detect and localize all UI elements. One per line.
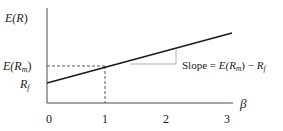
erm-tick-label: E(Rm): [2, 59, 31, 74]
sml-chart: E(R) E(Rm) Rf β 0 1 2 3 Slope = E(Rm) − …: [0, 0, 283, 131]
x-tick-2: 2: [163, 112, 169, 126]
slope-annotation: Slope = E(Rm) − Rf: [182, 59, 266, 73]
x-tick-0: 0: [46, 112, 52, 126]
y-axis-label: E(R): [4, 11, 28, 25]
security-market-line: [47, 33, 232, 83]
x-tick-3: 3: [224, 112, 230, 126]
x-tick-1: 1: [102, 112, 108, 126]
rf-tick-label: Rf: [19, 77, 31, 92]
x-axis-label: β: [239, 96, 247, 111]
